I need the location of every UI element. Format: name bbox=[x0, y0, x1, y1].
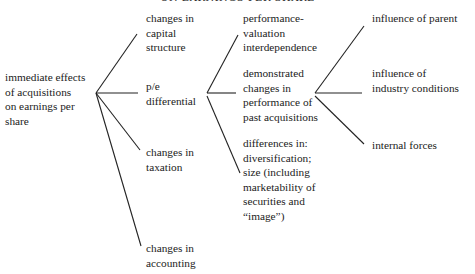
edge-pe-valuation bbox=[207, 35, 238, 93]
node-influence-industry: influence of industry conditions bbox=[372, 66, 459, 95]
node-pe-differential: p/e differential bbox=[146, 79, 196, 108]
node-demonstrated-changes: demonstrated changes in performance of p… bbox=[243, 66, 318, 124]
node-taxation: changes in taxation bbox=[146, 145, 194, 174]
node-capital-structure: changes in capital structure bbox=[146, 11, 194, 55]
tree-edges bbox=[0, 0, 475, 274]
node-accounting: changes in accounting bbox=[146, 241, 196, 270]
edge-demo-internal bbox=[315, 96, 364, 144]
edge-root-taxation bbox=[96, 93, 140, 150]
edge-root-capital bbox=[96, 34, 137, 93]
node-differences: differences in: diversification; size (i… bbox=[243, 136, 315, 223]
node-influence-parent: influence of parent bbox=[372, 11, 457, 26]
node-performance-valuation: performance- valuation interdependence bbox=[243, 11, 317, 55]
edge-pe-differences bbox=[207, 96, 240, 173]
edge-root-accounting bbox=[96, 93, 141, 246]
root-node: immediate effects of acquisitions on ear… bbox=[5, 70, 85, 128]
edge-demo-parent bbox=[315, 26, 364, 93]
node-internal-forces: internal forces bbox=[372, 138, 437, 153]
